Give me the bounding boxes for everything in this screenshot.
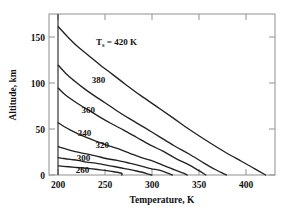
x-tick-label-400: 400 <box>239 180 254 190</box>
annotation-ts-rest: = 420 K <box>105 37 137 47</box>
curve-label-340: 340 <box>78 128 92 138</box>
y-tick-label-150: 150 <box>31 33 46 43</box>
x-tick-label-350: 350 <box>192 180 207 190</box>
x-axis-label: Temperature, K <box>130 195 196 205</box>
x-tick-labels: 200 250 300 350 400 <box>51 180 254 190</box>
y-tick-label-0: 0 <box>40 171 45 181</box>
x-tick-label-300: 300 <box>145 180 160 190</box>
curve-label-360: 360 <box>81 105 95 115</box>
altitude-temperature-chart: 0 50 100 150 200 250 300 350 400 Tempera… <box>0 0 291 216</box>
curve-label-300: 300 <box>77 153 91 163</box>
curve-label-380: 380 <box>92 75 106 85</box>
y-tick-labels: 0 50 100 150 <box>31 33 46 181</box>
y-tick-label-100: 100 <box>31 79 46 89</box>
figure-container: 0 50 100 150 200 250 300 350 400 Tempera… <box>0 0 291 216</box>
curve-label-260: 260 <box>76 165 90 175</box>
y-axis-label: Altitude, km <box>8 69 18 120</box>
y-tick-label-50: 50 <box>36 125 46 135</box>
curve-label-320: 320 <box>95 140 109 150</box>
x-tick-label-250: 250 <box>98 180 113 190</box>
x-tick-label-200: 200 <box>51 180 66 190</box>
